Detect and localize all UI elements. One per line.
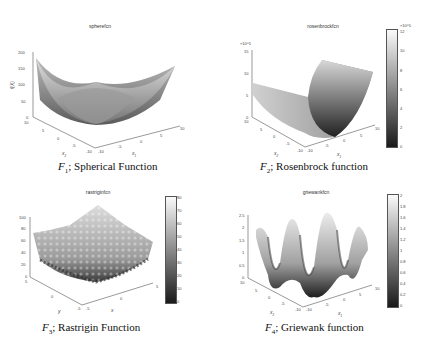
colorbar-tick: 10: [177, 286, 181, 291]
y-tick: 10: [244, 119, 248, 124]
y-tick: 5: [260, 127, 262, 132]
y-axis-label: x2: [274, 150, 278, 158]
plot-title: rastriginfcn: [68, 189, 128, 195]
colorbar-tick: 10: [400, 48, 404, 53]
colorbar-tick: 70: [177, 208, 181, 213]
colorbar: [387, 194, 399, 308]
colorbar-tick: 30: [177, 260, 181, 265]
colorbar-tick: 0.6: [400, 270, 406, 275]
y-tick: 0: [51, 294, 53, 299]
colorbar-tick: 0: [400, 144, 402, 149]
x-tick: -5: [325, 143, 329, 148]
z-tick: 10: [244, 71, 248, 76]
x-axis-label: x1: [337, 151, 341, 159]
y-axis-label: x2: [62, 150, 66, 158]
colorbar-tick: 1.6: [400, 215, 406, 220]
y-axis-label: y: [58, 308, 61, 314]
figure-caption: F2; Rosenbrock function: [260, 160, 368, 175]
y-tick: 10: [24, 120, 28, 125]
y-tick: -10: [297, 148, 303, 153]
colorbar-tick: 12: [400, 29, 404, 34]
colorbar-tick: 1.4: [400, 226, 406, 231]
colorbar-tick: 0.4: [400, 281, 406, 286]
colorbar-tick: 4: [400, 106, 402, 111]
colorbar-tick: 2: [400, 125, 402, 130]
colorbar-tick: 80: [177, 195, 181, 200]
x-tick: 10: [375, 286, 379, 291]
z-tick: 100: [18, 82, 25, 87]
z-tick: 40: [21, 250, 25, 255]
z-tick: 0.5: [239, 263, 245, 268]
x-tick: -10: [307, 148, 313, 153]
panel-rosenbrock: rosenbrockfcn ×10^5 15 10 5 0 10 5 0 -5 …: [210, 0, 420, 175]
x-tick: 5: [359, 292, 361, 297]
plot-title: rosenbrockfcn: [293, 23, 353, 29]
x-tick: 5: [360, 133, 362, 138]
panel-spherical: spherefcn 200 150 100 50 0 f(X) 10 5 0 -…: [0, 0, 210, 175]
panel-griewank: griewankfcn 2.5 2 1.5 1 0.5 0 10 5 0 -5 …: [210, 175, 420, 350]
colorbar-tick: 0: [400, 303, 402, 308]
x-tick: 0: [120, 296, 122, 301]
z-tick: 100: [19, 215, 26, 220]
z-tick: 15: [244, 49, 248, 54]
x-tick: 0: [343, 297, 345, 302]
y-tick: -5: [281, 301, 285, 306]
y-tick: -5: [286, 141, 290, 146]
y-axis-label: x2: [270, 309, 274, 317]
colorbar-tick: 0: [177, 299, 179, 304]
x-axis-label: x1: [338, 310, 342, 318]
x-tick: -10: [306, 307, 312, 312]
z-tick: 50: [21, 99, 25, 104]
colorbar-tick: 6: [400, 87, 402, 92]
z-scale-label: ×10^5: [240, 41, 251, 46]
y-tick: 5: [42, 128, 44, 133]
y-tick: 5: [255, 288, 257, 293]
colorbar-tick: 1.8: [400, 204, 406, 209]
y-tick: -10: [86, 149, 92, 154]
y-tick: 0: [273, 134, 275, 139]
colorbar-tick: 0.8: [400, 259, 406, 264]
x-tick: 0: [343, 138, 345, 143]
x-tick: -5: [325, 302, 329, 307]
x-tick: 5: [160, 133, 162, 138]
z-tick: 2: [242, 225, 244, 230]
x-axis-label: x1: [132, 150, 136, 158]
colorbar-tick: 20: [177, 273, 181, 278]
y-tick: 0: [268, 295, 270, 300]
colorbar-tick: 50: [177, 234, 181, 239]
figure-caption: F4; Griewank function: [265, 321, 364, 336]
colorbar-scale: ×10^5: [400, 23, 411, 28]
x-axis-label: x: [111, 307, 114, 313]
figure-caption: F1; Spherical Function: [58, 160, 157, 175]
z-tick: 60: [21, 238, 25, 243]
x-tick: -5: [118, 144, 122, 149]
colorbar-tick: 1: [400, 248, 402, 253]
y-tick: -10: [295, 307, 301, 312]
colorbar-tick: 60: [177, 221, 181, 226]
x-tick: -10: [98, 149, 104, 154]
colorbar-tick: 8: [400, 68, 402, 73]
x-tick: 10: [180, 126, 184, 131]
colorbar: [386, 29, 398, 148]
z-tick: 5: [246, 93, 248, 98]
x-tick: 10: [375, 126, 379, 131]
x-tick: -5: [86, 306, 90, 311]
x-tick: 5: [156, 284, 158, 289]
z-axis-label: f(X): [9, 81, 15, 89]
colorbar-tick: 1.2: [400, 237, 406, 242]
z-tick: 20: [21, 262, 25, 267]
plot-title: griewankfcn: [286, 189, 346, 195]
y-tick: 0: [57, 136, 59, 141]
panel-rastrigin: rastriginfcn 100 80 60 40 20 0 5 0 -5 y …: [0, 175, 210, 350]
z-tick: 2.5: [239, 213, 245, 218]
z-tick: 200: [18, 50, 25, 55]
y-tick: 10: [240, 280, 244, 285]
colorbar-tick: 0.2: [400, 292, 406, 297]
y-tick: -5: [72, 143, 76, 148]
colorbar-tick: 40: [177, 247, 181, 252]
x-tick: 0: [140, 139, 142, 144]
plot-title: spherefcn: [70, 23, 130, 29]
z-tick: 80: [21, 226, 25, 231]
z-tick: 1.5: [239, 238, 245, 243]
y-tick: 5: [25, 279, 27, 284]
